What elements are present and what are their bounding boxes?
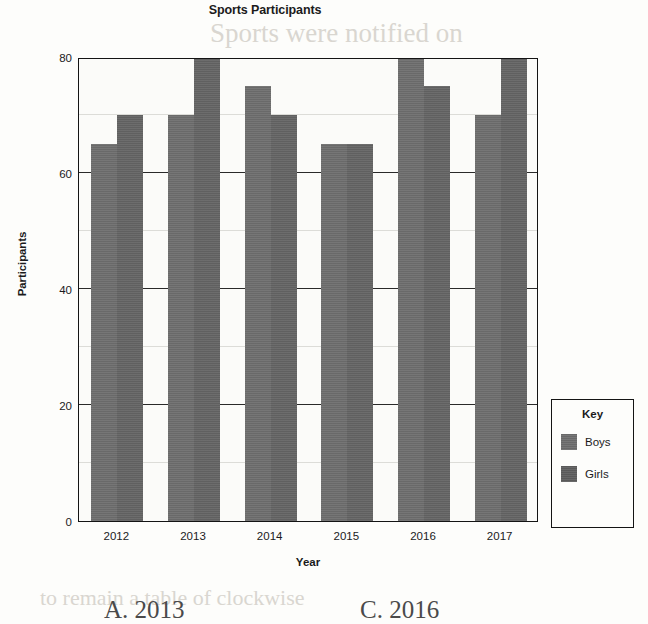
- bar-boys-2013: [168, 115, 194, 521]
- x-tick-label-2013: 2013: [155, 530, 231, 542]
- legend-title: Key: [552, 408, 633, 420]
- bar-group: [386, 59, 463, 521]
- bar-boys-2014: [245, 86, 271, 521]
- chart-legend: Key BoysGirls: [551, 399, 634, 528]
- bar-girls-2015: [347, 144, 373, 521]
- legend-label: Girls: [585, 468, 609, 480]
- bar-group: [232, 59, 309, 521]
- answer-choice-a[interactable]: A. 2013: [104, 596, 185, 624]
- legend-label: Boys: [585, 436, 611, 448]
- bar-boys-2015: [321, 144, 347, 521]
- x-tick-label-2017: 2017: [462, 530, 538, 542]
- bar-group: [309, 59, 386, 521]
- bar-boys-2017: [475, 115, 501, 521]
- y-tick-label: 80: [28, 52, 72, 64]
- x-axis-tick-labels: 201220132014201520162017: [78, 530, 538, 550]
- answer-choices-row: A. 2013 C. 2016: [0, 596, 648, 624]
- bar-group: [79, 59, 156, 521]
- bars-layer: [79, 59, 537, 521]
- bar-girls-2017: [501, 58, 527, 521]
- legend-swatch-icon: [561, 466, 577, 482]
- y-axis-tick-labels: 020406080: [28, 58, 72, 522]
- x-tick-label-2015: 2015: [308, 530, 384, 542]
- legend-item-boys: Boys: [561, 434, 633, 450]
- bar-girls-2014: [271, 115, 297, 521]
- x-tick-label-2016: 2016: [385, 530, 461, 542]
- bar-girls-2013: [194, 58, 220, 521]
- y-axis-title: Participants: [16, 204, 28, 324]
- bar-boys-2016: [398, 58, 424, 521]
- x-axis-title: Year: [78, 556, 538, 568]
- bar-girls-2016: [424, 86, 450, 521]
- answer-choice-c[interactable]: C. 2016: [360, 596, 439, 624]
- legend-items: BoysGirls: [552, 434, 633, 482]
- y-tick-label: 0: [28, 516, 72, 528]
- bar-group: [462, 59, 538, 521]
- bar-boys-2012: [91, 144, 117, 521]
- legend-swatch-icon: [561, 434, 577, 450]
- bar-group: [156, 59, 233, 521]
- plot-area: [78, 58, 538, 522]
- y-tick-label: 40: [28, 284, 72, 296]
- legend-item-girls: Girls: [561, 466, 633, 482]
- bar-girls-2012: [117, 115, 143, 521]
- y-tick-label: 60: [28, 168, 72, 180]
- x-tick-label-2012: 2012: [78, 530, 154, 542]
- bar-chart-figure: Sports Participants Participants 0204060…: [0, 0, 648, 580]
- chart-title: Sports Participants: [0, 3, 530, 17]
- y-tick-label: 20: [28, 400, 72, 412]
- x-tick-label-2014: 2014: [232, 530, 308, 542]
